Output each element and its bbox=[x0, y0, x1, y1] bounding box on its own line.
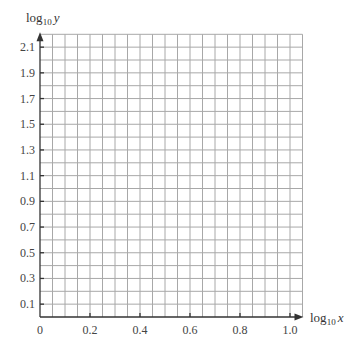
x-axis-title-base: log bbox=[310, 310, 327, 325]
y-tick-label: 0.7 bbox=[20, 220, 35, 234]
y-tick-label: 1.7 bbox=[20, 92, 35, 106]
y-tick-label: 1.9 bbox=[20, 66, 35, 80]
y-axis-arrow-icon bbox=[37, 32, 44, 41]
y-axis-title: log10y bbox=[26, 10, 60, 27]
y-tick-label: 1.1 bbox=[20, 169, 35, 183]
y-tick-label: 0.1 bbox=[20, 297, 35, 311]
x-axis-title-var: x bbox=[337, 310, 344, 325]
y-tick-label: 0.9 bbox=[20, 194, 35, 208]
y-axis-title-sub: 10 bbox=[43, 17, 53, 27]
x-axis-title: log10x bbox=[310, 310, 344, 327]
y-tick-label: 0.5 bbox=[20, 246, 35, 260]
y-tick-label: 1.3 bbox=[20, 143, 35, 157]
y-tick-labels: 0.10.30.50.70.91.11.31.51.71.92.1 bbox=[20, 40, 35, 311]
x-tick-labels: 00.20.40.60.81.0 bbox=[37, 323, 298, 337]
grid-lines bbox=[40, 34, 303, 317]
x-tick-label: 0.2 bbox=[83, 323, 98, 337]
x-tick-label: 0.6 bbox=[183, 323, 198, 337]
x-tick-label: 0.4 bbox=[133, 323, 148, 337]
x-tick-label: 0.8 bbox=[233, 323, 248, 337]
x-axis-title-sub: 10 bbox=[327, 317, 337, 327]
log-log-grid-chart: 00.20.40.60.81.0 0.10.30.50.70.91.11.31.… bbox=[0, 0, 349, 362]
y-tick-label: 0.3 bbox=[20, 271, 35, 285]
y-axis-title-base: log bbox=[26, 10, 43, 25]
y-tick-label: 1.5 bbox=[20, 117, 35, 131]
x-tick-label: 0 bbox=[37, 323, 43, 337]
y-tick-label: 2.1 bbox=[20, 40, 35, 54]
y-axis-title-var: y bbox=[52, 10, 60, 25]
x-tick-label: 1.0 bbox=[283, 323, 298, 337]
axes bbox=[37, 32, 304, 320]
